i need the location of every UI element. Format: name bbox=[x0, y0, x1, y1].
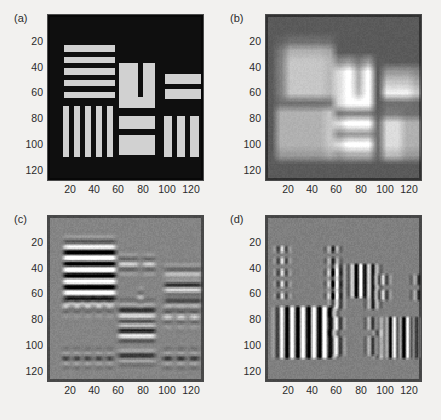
xtick-label: 40 bbox=[306, 183, 318, 195]
panel-c-axes bbox=[47, 215, 204, 382]
xtick-label: 60 bbox=[330, 384, 342, 396]
xtick-label: 120 bbox=[182, 384, 200, 396]
ytick-label: 100 bbox=[231, 339, 261, 351]
ytick-label: 40 bbox=[17, 262, 43, 274]
panel-d: (d) 20 40 60 80 100 120 20 40 60 80 100 … bbox=[220, 205, 441, 420]
panel-c-label: (c) bbox=[14, 213, 27, 225]
xtick-label: 80 bbox=[355, 183, 367, 195]
ytick-label: 20 bbox=[235, 35, 261, 47]
xtick-label: 40 bbox=[306, 384, 318, 396]
xtick-label: 60 bbox=[112, 384, 124, 396]
ytick-label: 20 bbox=[17, 35, 43, 47]
ytick-label: 40 bbox=[235, 61, 261, 73]
ytick-label: 60 bbox=[235, 86, 261, 98]
panel-d-axes bbox=[265, 215, 422, 382]
panel-a-axes bbox=[47, 14, 204, 181]
ytick-label: 60 bbox=[17, 86, 43, 98]
panel-d-image bbox=[266, 216, 421, 381]
ytick-label: 20 bbox=[17, 236, 43, 248]
xtick-label: 40 bbox=[88, 183, 100, 195]
ytick-label: 80 bbox=[17, 112, 43, 124]
ytick-label: 120 bbox=[231, 164, 261, 176]
ytick-label: 60 bbox=[17, 287, 43, 299]
xtick-label: 120 bbox=[182, 183, 200, 195]
ytick-label: 40 bbox=[235, 262, 261, 274]
panel-a: (a) 20 40 60 80 100 120 20 40 60 80 100 … bbox=[0, 0, 220, 205]
ytick-label: 60 bbox=[235, 287, 261, 299]
xtick-label: 20 bbox=[64, 384, 76, 396]
xtick-label: 100 bbox=[376, 384, 394, 396]
xtick-label: 100 bbox=[376, 183, 394, 195]
panel-c: (c) 20 40 60 80 100 120 20 40 60 80 100 … bbox=[0, 205, 220, 420]
ytick-label: 80 bbox=[17, 313, 43, 325]
xtick-label: 80 bbox=[137, 183, 149, 195]
ytick-label: 80 bbox=[235, 313, 261, 325]
ytick-label: 100 bbox=[231, 138, 261, 150]
xtick-label: 80 bbox=[355, 384, 367, 396]
figure-container: (a) 20 40 60 80 100 120 20 40 60 80 100 … bbox=[0, 0, 441, 420]
ytick-label: 20 bbox=[235, 236, 261, 248]
xtick-label: 20 bbox=[282, 384, 294, 396]
ytick-label: 120 bbox=[231, 365, 261, 377]
panel-b: (b) 20 40 60 80 100 120 20 40 60 80 100 … bbox=[220, 0, 441, 205]
xtick-label: 60 bbox=[112, 183, 124, 195]
ytick-label: 120 bbox=[13, 365, 43, 377]
xtick-label: 60 bbox=[330, 183, 342, 195]
panel-b-image bbox=[266, 15, 421, 180]
panel-b-axes bbox=[265, 14, 422, 181]
xtick-label: 20 bbox=[282, 183, 294, 195]
ytick-label: 100 bbox=[13, 138, 43, 150]
xtick-label: 120 bbox=[400, 384, 418, 396]
panel-a-label: (a) bbox=[14, 12, 27, 24]
panel-b-label: (b) bbox=[230, 12, 243, 24]
xtick-label: 20 bbox=[64, 183, 76, 195]
ytick-label: 100 bbox=[13, 339, 43, 351]
panel-c-image bbox=[48, 216, 203, 381]
xtick-label: 100 bbox=[158, 183, 176, 195]
xtick-label: 40 bbox=[88, 384, 100, 396]
xtick-label: 120 bbox=[400, 183, 418, 195]
ytick-label: 80 bbox=[235, 112, 261, 124]
ytick-label: 120 bbox=[13, 164, 43, 176]
xtick-label: 100 bbox=[158, 384, 176, 396]
panel-a-image bbox=[48, 15, 203, 180]
xtick-label: 80 bbox=[137, 384, 149, 396]
panel-d-label: (d) bbox=[230, 213, 243, 225]
ytick-label: 40 bbox=[17, 61, 43, 73]
